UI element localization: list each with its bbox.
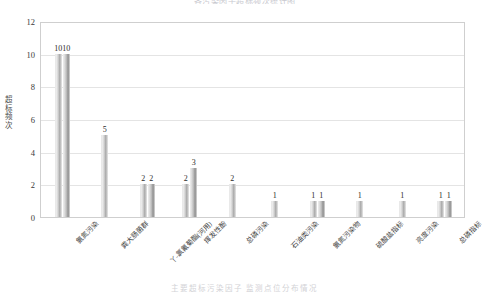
- bar[interactable]: [437, 201, 444, 217]
- bar-item[interactable]: 5: [101, 23, 108, 217]
- bar-group: 11: [424, 23, 467, 217]
- bar-item[interactable]: 2: [229, 23, 236, 217]
- y-tick-0: 0: [13, 213, 35, 223]
- bar-value-label: 10: [54, 44, 62, 53]
- bar-group: 2: [211, 23, 254, 217]
- bars-layer: 10105222321111111: [41, 23, 464, 217]
- bar[interactable]: [148, 184, 155, 217]
- bar-group: 1: [381, 23, 424, 217]
- bar-value-label: 5: [103, 125, 107, 134]
- x-tick-label: 粪大肠菌群: [120, 220, 150, 250]
- bar-value-label: 1: [358, 191, 362, 200]
- bar-value-label: 2: [141, 174, 145, 183]
- bar-item[interactable]: 1: [271, 23, 278, 217]
- bar-group: 11: [296, 23, 339, 217]
- bar-value-label: 1: [400, 191, 404, 200]
- y-axis-tick-labels: 024681012: [5, 0, 35, 288]
- bar-value-label: 1: [319, 191, 323, 200]
- bar[interactable]: [63, 54, 70, 217]
- bar-item[interactable]: 3: [190, 23, 197, 217]
- plot-area: 10105222321111111: [40, 22, 465, 218]
- x-tick-label: 石油类污染: [290, 220, 320, 250]
- x-tick-label: 硫酸盐指标: [375, 220, 405, 250]
- bar-value-label: 2: [149, 174, 153, 183]
- bar[interactable]: [182, 184, 189, 217]
- bar[interactable]: [190, 168, 197, 217]
- bar-value-label: 3: [192, 158, 196, 167]
- bar-value-label: 2: [184, 174, 188, 183]
- bar-value-label: 1: [439, 191, 443, 200]
- bar-item[interactable]: 1: [445, 23, 452, 217]
- bar-group: 22: [126, 23, 169, 217]
- bar-item[interactable]: 10: [55, 23, 62, 217]
- y-tick-8: 8: [13, 82, 35, 92]
- bar-group: 23: [169, 23, 212, 217]
- bar-item[interactable]: 1: [437, 23, 444, 217]
- bar[interactable]: [356, 201, 363, 217]
- bar-group: 5: [84, 23, 127, 217]
- bar-item[interactable]: 1: [310, 23, 317, 217]
- bar-value-label: 10: [62, 44, 70, 53]
- x-tick-label: 总磷污染: [245, 220, 270, 245]
- x-tick-label: 总磷指标: [458, 220, 483, 245]
- bar[interactable]: [101, 135, 108, 217]
- bar[interactable]: [140, 184, 147, 217]
- bar-item[interactable]: 10: [63, 23, 70, 217]
- bar-value-label: 2: [230, 174, 234, 183]
- y-tick-2: 2: [13, 180, 35, 190]
- y-tick-6: 6: [13, 115, 35, 125]
- chart-title: 各污染因子超标频次统计图: [0, 0, 489, 4]
- x-axis-tick-labels: 氨氮污染粪大肠菌群丫-氯氰菊酯(河用)挥发性酚总磷污染石油类污染氨氮污染物硫酸盐…: [40, 220, 465, 275]
- bar[interactable]: [318, 201, 325, 217]
- bar-item[interactable]: 1: [356, 23, 363, 217]
- bar-value-label: 1: [273, 191, 277, 200]
- bar[interactable]: [399, 201, 406, 217]
- bar[interactable]: [310, 201, 317, 217]
- bar-value-label: 1: [311, 191, 315, 200]
- bar-item[interactable]: 2: [182, 23, 189, 217]
- bar[interactable]: [271, 201, 278, 217]
- bar-item[interactable]: 2: [140, 23, 147, 217]
- bar-group: 1: [254, 23, 297, 217]
- bar[interactable]: [445, 201, 452, 217]
- x-tick-label: 氨氮污染: [75, 220, 100, 245]
- bar-value-label: 1: [447, 191, 451, 200]
- bar-item[interactable]: 1: [318, 23, 325, 217]
- bar-item[interactable]: 1: [399, 23, 406, 217]
- chart-caption: 主要超标污染因子 监测点位分布情况: [0, 282, 489, 292]
- y-tick-10: 10: [13, 50, 35, 60]
- bar[interactable]: [55, 54, 62, 217]
- x-tick-label: 亮度污染: [415, 220, 440, 245]
- bar[interactable]: [229, 184, 236, 217]
- bar-group: 1: [339, 23, 382, 217]
- x-tick-label: 氨氮污染物: [333, 220, 363, 250]
- y-tick-4: 4: [13, 148, 35, 158]
- y-tick-12: 12: [13, 17, 35, 27]
- bar-group: 1010: [41, 23, 84, 217]
- bar-item[interactable]: 2: [148, 23, 155, 217]
